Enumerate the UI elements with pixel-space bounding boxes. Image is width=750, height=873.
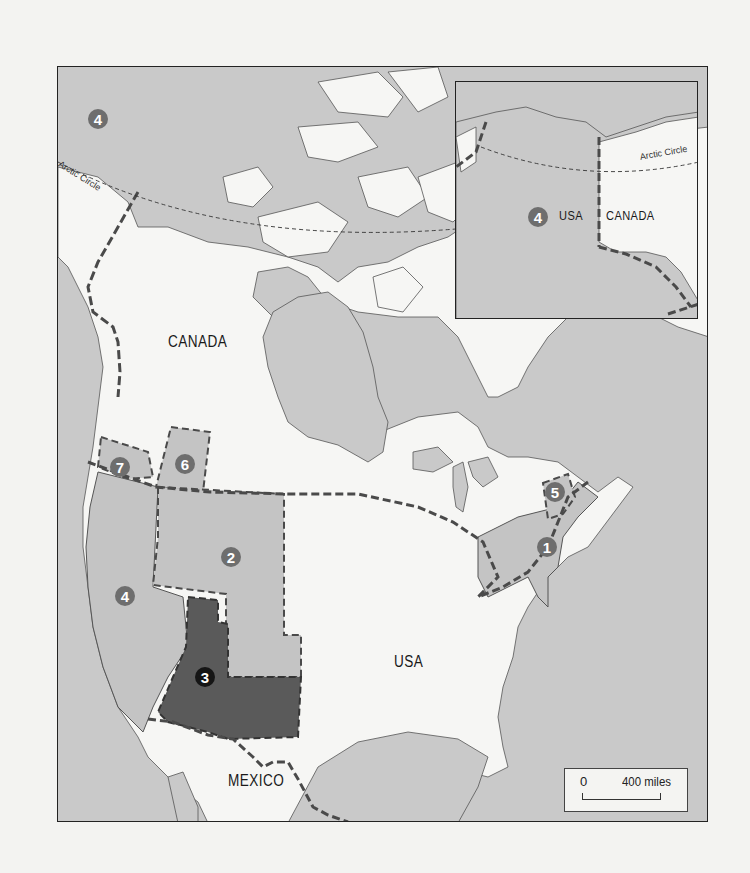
scale-line (582, 793, 661, 800)
region-marker-7[interactable]: 7 (110, 457, 130, 477)
inset-map (456, 82, 698, 319)
region-marker-4[interactable]: 4 (115, 586, 135, 606)
region-marker-2[interactable]: 2 (221, 547, 241, 567)
scale-bar: 0 400 miles (564, 768, 688, 812)
label-usa: USA (394, 653, 423, 671)
region-marker-6[interactable]: 6 (175, 454, 195, 474)
label-canada: CANADA (168, 333, 227, 351)
map-frame: CANADA USA MEXICO Arctic Circle 4 7 6 2 … (57, 66, 708, 822)
region-marker-1[interactable]: 1 (537, 537, 557, 557)
alaska-inset: 4 USA CANADA Arctic Circle (455, 81, 698, 319)
inset-marker-4[interactable]: 4 (528, 207, 548, 227)
region-marker-5[interactable]: 5 (545, 482, 565, 502)
region-marker-3[interactable]: 3 (195, 667, 215, 687)
scale-max: 400 miles (622, 774, 671, 789)
inset-label-usa: USA (559, 208, 583, 223)
inset-label-canada: CANADA (606, 208, 655, 223)
scale-zero: 0 (580, 774, 587, 789)
region-marker-4-alaska[interactable]: 4 (88, 109, 108, 129)
label-mexico: MEXICO (228, 772, 284, 790)
